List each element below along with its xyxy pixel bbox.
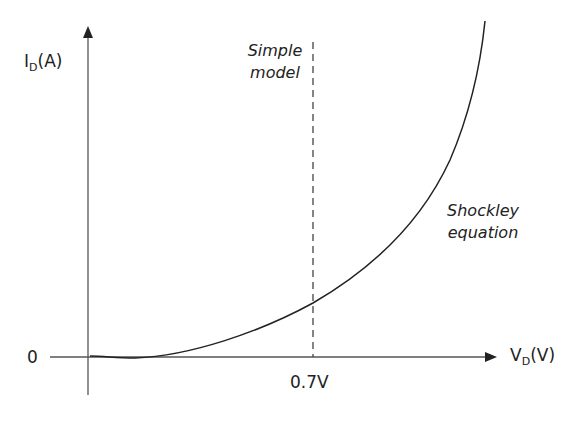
y-axis-label: ID(A): [24, 51, 62, 74]
shockley-annotation: Shockley equation: [438, 200, 528, 244]
shockley-text-line1: Shockley: [438, 200, 528, 222]
y-axis-arrow-icon: [83, 26, 93, 38]
y-axis-label-sub: D: [29, 61, 37, 74]
x-axis-label-sub: D: [522, 355, 530, 368]
y-axis-label-unit: (A): [38, 51, 63, 71]
threshold-label: 0.7V: [290, 372, 329, 392]
x-axis-label-main: V: [510, 345, 522, 365]
x-axis-arrow-icon: [485, 352, 497, 362]
shockley-text-line2: equation: [438, 222, 528, 244]
x-axis-label: VD(V): [510, 345, 555, 368]
x-axis-label-unit: (V): [530, 345, 555, 365]
simple-model-text-line1: Simple: [240, 40, 310, 62]
simple-model-text-line2: model: [240, 62, 310, 84]
origin-label: 0: [27, 347, 38, 367]
simple-model-annotation: Simple model: [240, 40, 310, 84]
